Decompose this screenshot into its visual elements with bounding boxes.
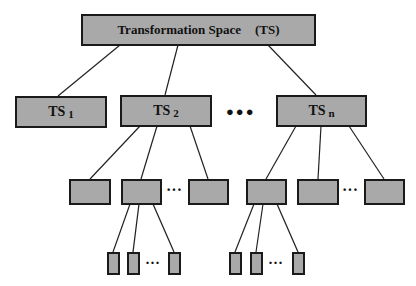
node-ts2-child-m xyxy=(188,179,229,205)
node-ts-1-label: TS xyxy=(48,104,65,120)
node-tsn-child-m xyxy=(364,179,405,205)
node-ts2-child-1 xyxy=(69,179,111,205)
level1-ellipsis: ●●● xyxy=(226,105,256,118)
node-ts-1: TS1 xyxy=(15,96,107,128)
node-ts-1-subscript: 1 xyxy=(68,108,74,120)
level2-right-ellipsis: ··· xyxy=(342,182,358,198)
leaf-left-1 xyxy=(107,252,120,275)
leaf-right-2 xyxy=(250,252,263,275)
root-abbr: (TS) xyxy=(255,22,280,38)
root-node-transformation-space: Transformation Space (TS) xyxy=(81,14,316,46)
level3-left-ellipsis: ··· xyxy=(145,256,160,271)
leaf-left-k xyxy=(168,252,181,275)
node-tsn-child-2 xyxy=(297,179,339,205)
node-ts-2-label: TS xyxy=(153,103,170,119)
leaf-left-2 xyxy=(127,252,140,275)
level2-left-ellipsis: ··· xyxy=(166,182,182,198)
node-ts-2-subscript: 2 xyxy=(173,107,179,119)
root-label: Transformation Space xyxy=(117,22,241,38)
node-ts-n-label: TS xyxy=(308,103,325,119)
level3-right-ellipsis: ··· xyxy=(268,256,283,271)
node-ts-n-subscript: n xyxy=(329,107,335,119)
leaf-right-k xyxy=(292,252,305,275)
node-ts-n: TSn xyxy=(276,95,367,127)
node-tsn-child-1 xyxy=(246,179,287,205)
node-ts2-child-2 xyxy=(121,179,162,205)
node-ts-2: TS2 xyxy=(120,95,212,127)
leaf-right-1 xyxy=(229,252,242,275)
